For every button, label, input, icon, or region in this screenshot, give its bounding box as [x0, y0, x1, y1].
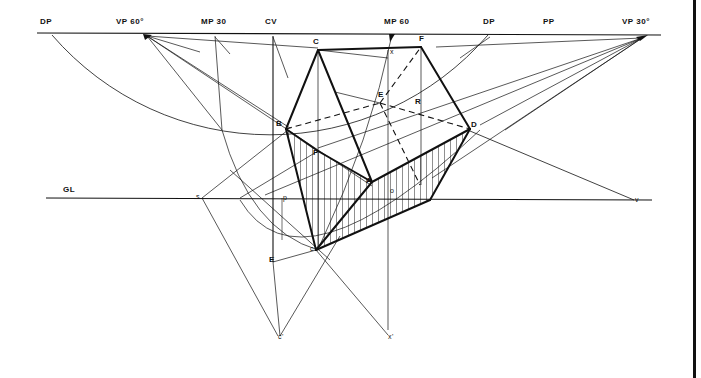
label-pp: PP — [543, 18, 555, 26]
c-to-xprime — [316, 250, 388, 335]
label-A: A — [366, 177, 372, 185]
label-dp-left: DP — [40, 18, 52, 26]
picture-plane-line — [37, 33, 661, 35]
label-mp30: MP 30 — [201, 18, 226, 26]
label-s: s — [196, 193, 200, 200]
dp-right-ray — [460, 37, 490, 58]
vp30-ray-3 — [480, 38, 642, 125]
label-GL: GL — [63, 186, 75, 194]
construction-arcs — [52, 35, 488, 250]
vp60-ray-2 — [147, 36, 290, 128]
vp60-ray-1 — [147, 36, 200, 52]
edge-B-C — [286, 50, 318, 129]
label-p-lower: p — [283, 194, 287, 201]
x-horizontal — [318, 50, 388, 58]
vp30-ray-5 — [432, 38, 642, 178]
label-x-prime: x' — [388, 333, 394, 340]
label-E-upper: E — [378, 91, 384, 99]
E-to-cprime — [273, 262, 280, 336]
vp60-ray-5 — [147, 36, 222, 130]
frame-border-right — [693, 0, 696, 378]
label-cv: CV — [265, 18, 277, 26]
E-line — [335, 92, 380, 103]
label-v: v — [635, 196, 639, 203]
label-R: R — [415, 98, 421, 106]
cv-ray — [273, 37, 288, 78]
vp30-ray-1 — [436, 38, 642, 47]
vp30-ray-2 — [318, 38, 642, 148]
D-to-v — [470, 131, 634, 200]
label-vp60: VP 60° — [116, 18, 144, 26]
dash-E-F — [380, 47, 421, 103]
label-C: C — [313, 38, 319, 46]
label-B: B — [276, 120, 282, 128]
vp30-ray-6 — [265, 38, 642, 195]
label-o: o — [390, 187, 394, 194]
mp30-ray — [215, 37, 230, 54]
edge-C-F — [318, 47, 421, 50]
perspective-drawing — [0, 0, 701, 378]
label-D: D — [471, 121, 477, 129]
label-c-prime: c' — [278, 333, 284, 340]
vp60-ray-3 — [147, 36, 318, 48]
label-dp-right: DP — [483, 18, 495, 26]
label-c-lower: c — [310, 245, 314, 252]
mp30-vertical — [215, 36, 222, 130]
label-P-upper: P — [313, 149, 319, 157]
dash-B-E — [286, 103, 380, 129]
s-to-cprime — [202, 198, 278, 336]
label-mp60: MP 60 — [384, 18, 409, 26]
label-vp30: VP 30° — [622, 18, 650, 26]
label-F: F — [419, 35, 424, 43]
mp60-arrow-icon — [389, 34, 395, 42]
label-E-lower: E — [269, 256, 275, 264]
label-x: x — [390, 48, 394, 55]
